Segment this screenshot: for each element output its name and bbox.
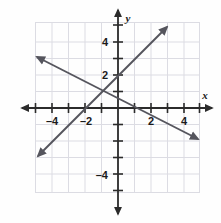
- x-tick-label-neg4: –4: [46, 115, 59, 127]
- x-tick-label-2: 2: [148, 115, 154, 127]
- x-tick-label-4: 4: [181, 115, 188, 127]
- x-tick-label-neg2: –2: [80, 115, 92, 127]
- y-tick-label-4: 4: [102, 36, 109, 48]
- graph-canvas: –4 –2 2 4 4 2 –4 x y: [0, 0, 221, 223]
- coordinate-plane-graph: –4 –2 2 4 4 2 –4 x y: [0, 0, 221, 223]
- y-axis-label: y: [124, 12, 131, 24]
- x-axis-label: x: [201, 89, 208, 101]
- y-tick-label-2: 2: [102, 69, 108, 81]
- y-tick-label-neg4: –4: [96, 169, 109, 181]
